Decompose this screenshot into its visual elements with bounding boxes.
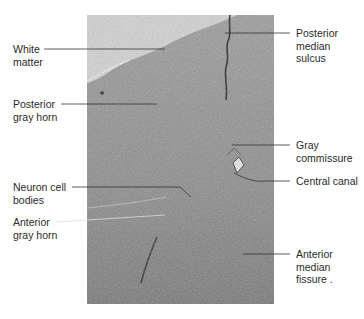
spinal-cord-figure: White matter Posterior gray horn Neuron …	[0, 0, 364, 319]
label-neuron-cell-bodies: Neuron cell bodies	[13, 181, 66, 206]
leader-line-anterior-gray-horn	[56, 215, 165, 222]
leader-line-central-canal	[234, 173, 290, 181]
leader-line-neuron-cell-bodies-tip	[180, 187, 191, 197]
label-posterior-gray-horn: Posterior gray horn	[13, 98, 57, 123]
label-white-matter: White matter	[13, 43, 43, 68]
label-posterior-median-sulcus: Posterior median sulcus	[296, 27, 338, 65]
label-central-canal: Central canal	[296, 175, 358, 188]
label-anterior-gray-horn: Anterior gray horn	[13, 216, 57, 241]
label-gray-commissure: Gray commissure	[296, 139, 353, 164]
label-anterior-median-fissure: Anterior median fissure .	[296, 248, 333, 286]
